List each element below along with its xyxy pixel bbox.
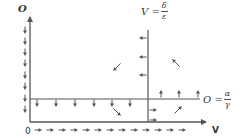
x-axis-right-arrow-icon	[95, 128, 102, 132]
h-nullcline-down-arrow-icon	[54, 100, 58, 107]
h-nullcline-down-arrow-icon	[35, 100, 39, 107]
lower-right-flow-arrow-icon	[174, 106, 181, 113]
v-nullcline-numerator: δ	[161, 2, 168, 12]
v-nullcline-right-arrow-icon	[150, 108, 157, 112]
v-nullcline-left-arrow-icon	[140, 55, 147, 59]
y-axis-down-arrow-icon	[23, 38, 27, 45]
v-nullcline-denominator: ε	[162, 12, 166, 21]
h-nullcline-up-arrow-icon	[177, 91, 181, 98]
y-axis-down-arrow-icon	[23, 106, 27, 113]
x-axis-right-arrow-icon	[35, 128, 42, 132]
y-axis-label: O	[18, 4, 27, 14]
h-nullcline-denominator: γ	[225, 100, 230, 109]
y-axis-down-arrow-icon	[23, 72, 27, 79]
h-nullcline-up-arrow-icon	[196, 91, 200, 98]
x-axis-right-arrow-icon	[155, 128, 162, 132]
x-axis-right-arrow-icon	[119, 128, 126, 132]
x-axis-right-arrow-icon	[47, 128, 54, 132]
x-axis-right-arrow-icon	[131, 128, 138, 132]
x-axis-right-arrow-icon	[143, 128, 150, 132]
y-axis-down-arrow-icon	[23, 60, 27, 67]
upper-right-flow-arrow-icon	[172, 59, 179, 66]
h-nullcline-down-arrow-icon	[110, 100, 114, 107]
y-axis-down-arrow-icon	[23, 95, 27, 102]
x-axis-right-arrow-icon	[59, 128, 66, 132]
v-nullcline-left-arrow-icon	[140, 73, 147, 77]
x-axis-right-arrow-icon	[107, 128, 114, 132]
h-nullcline-down-arrow-icon	[92, 100, 96, 107]
y-axis-down-arrow-icon	[23, 27, 27, 34]
x-axis-right-arrow-icon	[83, 128, 90, 132]
h-nullcline-label: O = α γ	[203, 90, 231, 109]
v-nullcline-lhs: V =	[141, 6, 160, 17]
upper-left-flow-arrow-icon	[113, 63, 120, 70]
phase-plane-diagram	[0, 0, 245, 138]
v-nullcline-label: V = δ ε	[141, 2, 168, 21]
x-axis-right-arrow-icon	[179, 128, 186, 132]
nullclines	[30, 30, 200, 122]
origin-label: 0	[25, 127, 31, 136]
h-nullcline-lhs: O =	[203, 94, 223, 105]
y-axis-down-arrow-icon	[23, 49, 27, 56]
h-nullcline-down-arrow-icon	[128, 100, 132, 107]
v-nullcline-left-arrow-icon	[140, 36, 147, 40]
h-nullcline-numerator: α	[224, 90, 231, 100]
direction-field-arrows	[23, 27, 200, 133]
h-nullcline-fraction: α γ	[224, 90, 231, 109]
x-axis-label: V	[212, 126, 219, 135]
v-nullcline-fraction: δ ε	[161, 2, 168, 21]
x-axis-right-arrow-icon	[71, 128, 78, 132]
h-nullcline-down-arrow-icon	[73, 100, 77, 107]
y-axis-down-arrow-icon	[23, 83, 27, 90]
h-nullcline-up-arrow-icon	[159, 91, 163, 98]
lower-left-flow-arrow-icon	[113, 108, 120, 115]
x-axis-right-arrow-icon	[167, 128, 174, 132]
